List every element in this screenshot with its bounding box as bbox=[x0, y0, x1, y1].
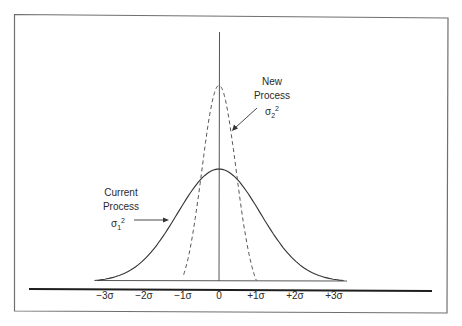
chart-canvas bbox=[0, 0, 462, 326]
mean-line bbox=[219, 32, 220, 281]
new-process-line2: Process bbox=[247, 89, 297, 102]
new-process-variance: σ22 bbox=[247, 102, 297, 122]
current-process-line2: Process bbox=[96, 200, 146, 213]
current-process-variance: σ12 bbox=[90, 214, 146, 234]
new-process-curve bbox=[184, 85, 257, 280]
new-process-label: New Process σ22 bbox=[247, 75, 297, 122]
tick-minus-1-sigma: −1σ bbox=[163, 290, 203, 301]
current-process-line1: Current bbox=[96, 186, 146, 199]
curve-baseline bbox=[97, 281, 347, 282]
tick-minus-3-sigma: −3σ bbox=[85, 290, 125, 301]
current-process-label: Current Process σ12 bbox=[96, 186, 146, 234]
tick-plus-3-sigma: +3σ bbox=[314, 290, 354, 301]
tick-plus-1-sigma: +1σ bbox=[236, 290, 276, 301]
tick-minus-2-sigma: −2σ bbox=[124, 290, 164, 301]
new-process-line1: New bbox=[247, 75, 297, 88]
tick-zero: 0 bbox=[199, 290, 239, 301]
tick-plus-2-sigma: +2σ bbox=[275, 290, 315, 301]
frame-border bbox=[15, 15, 449, 314]
